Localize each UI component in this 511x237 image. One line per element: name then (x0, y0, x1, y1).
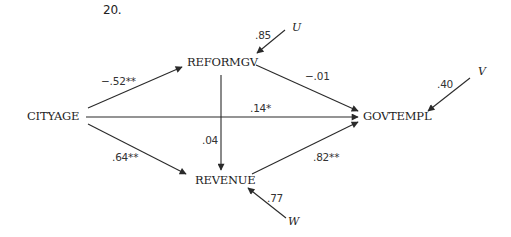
coef-u-reformgv: .85 (255, 29, 271, 41)
figure-number: 20. (103, 4, 121, 16)
node-cityage: CITYAGE (27, 110, 79, 122)
coef-reformgv-revenue: .04 (202, 134, 218, 146)
coef-cityage-reformgv: −.52** (101, 75, 136, 87)
error-term-w: W (288, 216, 299, 228)
arrow-revenue-govtempl (252, 122, 358, 174)
node-revenue: REVENUE (195, 174, 256, 186)
error-term-v: V (478, 66, 486, 78)
coef-reformgv-govtempl: −.01 (305, 70, 330, 82)
node-govtempl: GOVTEMPL (363, 110, 431, 122)
coef-revenue-govtempl: .82** (313, 151, 339, 163)
coef-cityage-revenue: .64** (112, 151, 138, 163)
error-term-u: U (292, 22, 301, 34)
coef-w-revenue: .77 (267, 192, 283, 204)
coef-v-govtempl: .40 (437, 78, 453, 90)
node-reformgv: REFORMGV (187, 56, 258, 68)
arrow-cityage-reformgv (88, 67, 182, 108)
arrow-cityage-revenue (88, 124, 186, 174)
coef-cityage-govtempl: .14* (250, 102, 271, 114)
